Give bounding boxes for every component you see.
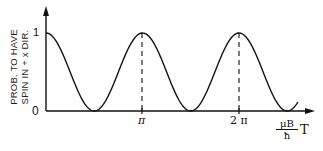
y-tick-0: 0: [32, 104, 39, 118]
probability-curve: [46, 33, 298, 111]
x-tick-pi: π: [138, 114, 145, 127]
y-axis-arrow-icon: [43, 6, 49, 16]
x-axis-arrow-icon: [305, 108, 315, 114]
y-tick-1: 1: [33, 26, 39, 38]
y-axis-label-line2: SPIN IN + x DIR.: [19, 12, 30, 122]
x-label-numerator: μB: [276, 118, 298, 130]
x-tick-2pi: 2 π: [230, 114, 248, 127]
x-axis-label-time: T: [300, 122, 309, 137]
plot-canvas: [0, 0, 323, 151]
x-axis-label-fraction: μB ħ: [276, 118, 298, 142]
y-axis-label: PROB. TO HAVE SPIN IN + x DIR.: [8, 12, 30, 122]
x-label-denominator: ħ: [276, 130, 298, 142]
y-axis-label-line1: PROB. TO HAVE: [8, 12, 19, 122]
